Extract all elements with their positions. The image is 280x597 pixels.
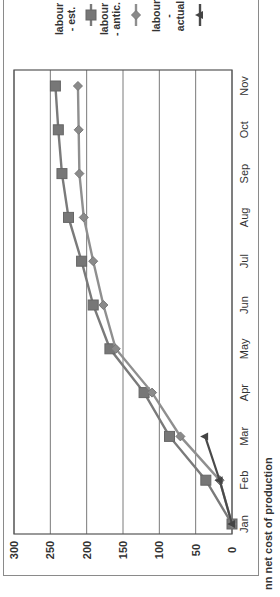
square-marker [88, 300, 98, 310]
value-tick-label: 50 [190, 544, 202, 556]
value-axis-ticks: 050100150200250300 [8, 541, 238, 559]
diamond-marker [132, 11, 141, 20]
month-tick-label: Feb [238, 471, 250, 490]
square-marker [64, 212, 74, 222]
diamond-marker [74, 125, 83, 134]
legend-label: labour [150, 0, 162, 32]
month-tick-label: Apr [238, 384, 250, 401]
month-tick-label: Jan [238, 515, 250, 533]
legend: labour- est.labour- antic.labour-actual [53, 0, 203, 36]
diamond-marker [73, 82, 82, 91]
square-marker [165, 431, 175, 441]
legend-label: labour [53, 3, 65, 35]
legend-item: labour-actual [150, 0, 203, 32]
value-tick-label: 150 [117, 541, 129, 559]
month-tick-label: Jun [238, 296, 250, 314]
legend-label: - [162, 14, 174, 18]
month-axis-ticks: JanFebMarAprMayJunJulAugSepOctNov [238, 76, 250, 533]
rotated-line-chart: 050100150200250300 JanFebMarAprMayJunJul… [0, 0, 280, 597]
month-tick-label: Aug [238, 208, 250, 228]
month-tick-label: May [238, 338, 250, 359]
diamond-marker [89, 257, 98, 266]
chart-caption: nn net cost of production [262, 457, 274, 590]
value-tick-label: 250 [44, 541, 56, 559]
value-tick-label: 100 [153, 541, 165, 559]
square-marker [57, 169, 67, 179]
gridlines [14, 70, 232, 534]
legend-label: - antic. [110, 2, 122, 36]
month-tick-label: Mar [238, 427, 250, 446]
chart-frame [4, 0, 259, 576]
month-tick-label: Oct [238, 121, 250, 138]
legend-item: labour- est. [53, 3, 96, 35]
legend-item: labour- antic. [98, 2, 141, 36]
triangle-marker [200, 432, 208, 440]
square-marker [77, 256, 87, 266]
legend-label: labour [98, 3, 110, 35]
value-tick-label: 0 [226, 547, 238, 553]
legend-label: actual [174, 1, 186, 31]
legend-label: - est. [65, 7, 77, 32]
square-marker [50, 81, 60, 91]
month-tick-label: Jul [238, 254, 250, 268]
diamond-marker [99, 301, 108, 310]
month-tick-label: Sep [238, 164, 250, 184]
diamond-marker [75, 169, 84, 178]
square-marker [86, 10, 96, 20]
value-tick-label: 300 [8, 541, 20, 559]
square-marker [53, 125, 63, 135]
series-lines [50, 81, 237, 529]
square-marker [201, 475, 211, 485]
value-tick-label: 200 [81, 541, 93, 559]
series-line [55, 86, 232, 524]
month-tick-label: Nov [238, 76, 250, 96]
